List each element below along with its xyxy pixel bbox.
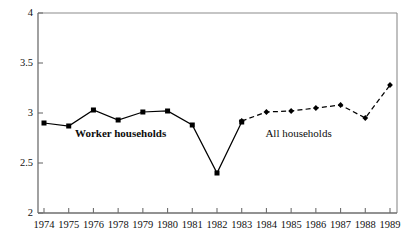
series-label-all-households: All households [265, 128, 331, 139]
x-axis-tick-label: 1983 [231, 220, 252, 231]
line-chart-plot [0, 0, 409, 239]
series-line-1 [242, 85, 390, 121]
data-point-marker [66, 124, 71, 129]
data-point-marker [288, 108, 294, 114]
data-point-marker [165, 109, 170, 114]
data-point-marker [190, 123, 195, 128]
y-axis-tick-label: 3.5 [4, 58, 33, 69]
x-axis-tick-label: 1987 [330, 220, 351, 231]
x-axis-tick-label: 1989 [380, 220, 401, 231]
x-axis-tick-label: 1975 [58, 220, 79, 231]
y-axis-tick-label: 3 [4, 108, 33, 119]
data-point-marker [264, 109, 270, 115]
data-point-marker [215, 171, 220, 176]
x-axis-tick-label: 1980 [157, 220, 178, 231]
data-point-marker [313, 105, 319, 111]
data-point-marker [140, 110, 145, 115]
y-axis-tick-label: 2.5 [4, 158, 33, 169]
series-line-0 [44, 110, 242, 173]
series-label-worker-households: Worker households [75, 128, 166, 139]
x-axis-tick-label: 1982 [207, 220, 228, 231]
x-axis-tick-label: 1984 [256, 220, 277, 231]
x-axis-tick-label: 1986 [305, 220, 326, 231]
x-axis-tick-label: 1976 [83, 220, 104, 231]
x-axis-tick-label: 1988 [355, 220, 376, 231]
data-point-marker [338, 102, 344, 108]
data-point-marker [91, 108, 96, 113]
x-axis-tick-label: 1985 [281, 220, 302, 231]
x-axis-tick-label: 1981 [182, 220, 203, 231]
data-point-marker [42, 121, 47, 126]
x-axis-tick-label: 1978 [108, 220, 129, 231]
x-axis-tick-label: 1974 [34, 220, 55, 231]
y-axis-tick-label: 2 [4, 208, 33, 219]
x-axis-tick-label: 1979 [132, 220, 153, 231]
y-axis-tick-label: 4 [4, 8, 33, 19]
data-point-marker [116, 118, 121, 123]
chart-container: 22.533.54 197419751976197819791980198119… [0, 0, 409, 239]
